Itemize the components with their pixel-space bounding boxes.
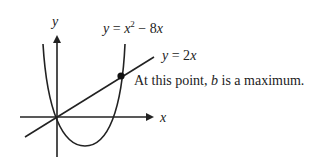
line-y-2x: [25, 57, 154, 137]
eq1-rest: − 8: [135, 21, 157, 36]
annotation-suffix: is a maximum.: [218, 73, 304, 88]
line-equation-label: y = 2x: [162, 49, 196, 63]
eq1-eq: =: [109, 21, 124, 36]
maximum-annotation: At this point, b is a maximum.: [134, 74, 304, 88]
eq2-eq: = 2: [168, 48, 190, 63]
x-axis-label: x: [160, 111, 166, 125]
intersection-point: [117, 72, 124, 79]
eq1-var: x: [157, 21, 163, 36]
annotation-prefix: At this point,: [134, 73, 211, 88]
parabola-curve: [43, 44, 125, 146]
y-axis-label: y: [52, 15, 58, 29]
y-axis-label-text: y: [52, 14, 58, 29]
parabola-equation-label: y = x2 − 8x: [103, 22, 163, 36]
eq2-var: x: [190, 48, 196, 63]
x-axis-label-text: x: [160, 110, 166, 125]
graph-diagram: y x y = x2 − 8x y = 2x At this point, b …: [0, 0, 312, 167]
annotation-var: b: [211, 73, 218, 88]
